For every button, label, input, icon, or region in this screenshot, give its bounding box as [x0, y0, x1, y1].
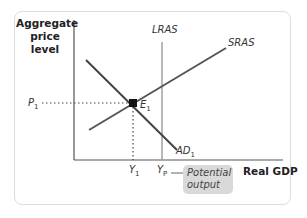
equilibrium-label: E1	[140, 99, 151, 113]
y1-label-sub: 1	[135, 170, 139, 178]
y1-label: Y1	[129, 164, 140, 178]
equilibrium-label-sub: 1	[146, 105, 150, 113]
ad-label-sub: 1	[191, 151, 195, 159]
ad-label: AD1	[176, 145, 195, 159]
ad-label-text: AD	[176, 145, 191, 156]
y-axis-label: Aggregate price level	[16, 17, 74, 56]
yp-label: YP	[157, 164, 167, 178]
sras-curve	[89, 48, 226, 130]
p1-label: P1	[28, 97, 39, 111]
lras-label: LRAS	[152, 24, 178, 35]
p1-label-sub: 1	[34, 103, 38, 111]
sras-label: SRAS	[228, 37, 254, 48]
potential-output-callout: Potential output	[183, 165, 233, 194]
x-axis-label: Real GDP	[243, 165, 298, 177]
yp-label-sub: P	[163, 170, 167, 178]
equilibrium-point	[129, 99, 137, 107]
